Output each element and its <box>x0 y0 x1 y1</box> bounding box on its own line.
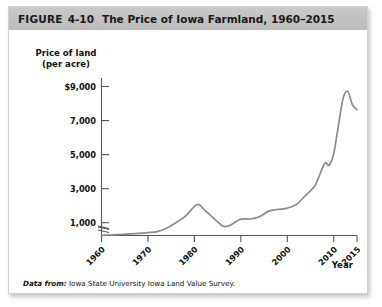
figure-label: FIGURE <box>18 13 63 25</box>
y-axis-title-line2: (per acre) <box>42 59 90 69</box>
data-series-line <box>102 91 358 235</box>
x-axis-title: Year <box>331 260 354 270</box>
x-tick-mark-group <box>102 236 358 243</box>
y-tick-mark-group <box>102 87 110 223</box>
figure-title: The Price of Iowa Farmland, 1960–2015 <box>102 13 335 25</box>
y-tick-label: 1,000 <box>70 218 96 228</box>
y-tick-label-group: $9,0007,0005,0003,0001,000 <box>64 82 96 228</box>
y-axis-break-marks <box>98 226 109 233</box>
y-tick-label: 7,000 <box>70 116 96 126</box>
y-tick-label: 3,000 <box>70 184 96 194</box>
y-axis-title-group: Price of land (per acre) <box>35 48 96 69</box>
x-tick-label: 1960 <box>84 244 107 267</box>
figure-card: FIGURE 4-10 The Price of Iowa Farmland, … <box>8 6 368 294</box>
x-tick-label: 1970 <box>130 244 153 267</box>
y-axis-title-line1: Price of land <box>35 48 96 58</box>
x-tick-label: 1980 <box>177 244 200 267</box>
y-tick-label: 5,000 <box>70 150 96 160</box>
line-chart: Price of land (per acre) $9,0007,0005,00… <box>9 30 369 273</box>
x-tick-label-group: 1960197019801990200020102015 <box>84 244 363 267</box>
chart-plot-area: Price of land (per acre) $9,0007,0005,00… <box>9 30 367 273</box>
source-note: Data from: Iowa State University Iowa La… <box>23 279 235 288</box>
y-tick-label: $9,000 <box>64 82 96 92</box>
x-tick-label: 1990 <box>223 244 246 267</box>
source-note-lead: Data from: <box>23 279 67 288</box>
figure-header: FIGURE 4-10 The Price of Iowa Farmland, … <box>9 7 367 30</box>
figure-number: 4-10 <box>68 13 94 25</box>
source-note-text: Iowa State University Iowa Land Value Su… <box>69 279 235 288</box>
x-tick-label: 2000 <box>270 244 293 267</box>
